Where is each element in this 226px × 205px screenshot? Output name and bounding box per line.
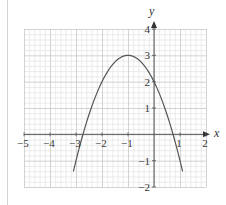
major-grid xyxy=(24,29,207,188)
parabola-chart: −5−4−3−2−112−2−11234 x y xyxy=(0,0,226,205)
x-tick-label: 1 xyxy=(176,137,182,149)
minor-grid xyxy=(24,29,206,187)
x-tick-label: −1 xyxy=(121,137,133,149)
x-tick-label: −5 xyxy=(17,137,29,149)
x-axis-label: x xyxy=(213,126,220,140)
x-tick-label: −2 xyxy=(95,137,107,149)
axes xyxy=(24,21,210,187)
y-tick-label: −1 xyxy=(138,155,150,167)
x-tick-label: 2 xyxy=(202,137,208,149)
y-axis-label: y xyxy=(148,4,155,18)
y-tick-label: 1 xyxy=(145,102,151,114)
x-tick-label: −3 xyxy=(69,137,81,149)
y-tick-label: 4 xyxy=(145,23,151,35)
y-tick-label: 2 xyxy=(145,76,151,88)
x-tick-label: −4 xyxy=(43,137,55,149)
y-tick-label: −2 xyxy=(138,181,150,193)
y-axis-arrow-icon xyxy=(151,21,157,28)
y-tick-label: 3 xyxy=(145,49,151,61)
